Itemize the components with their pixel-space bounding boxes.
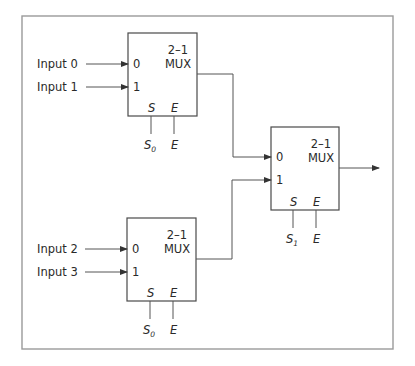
mux-top-in0-label: 0	[133, 57, 140, 71]
mux-bottom-select-signal: S0	[143, 323, 155, 339]
mux-bottom-title-line2: MUX	[164, 242, 190, 256]
input-1-label: Input 1	[37, 80, 78, 94]
mux-bottom-select-pin-label: S	[147, 286, 154, 300]
mux-bottom-title-line1: 2–1	[167, 228, 187, 242]
mux-top-select-signal: S0	[144, 138, 156, 154]
input-0-label: Input 0	[37, 57, 78, 71]
mux-bottom-enable-signal: E	[170, 323, 178, 337]
mux-output-select-pin-label: S	[290, 195, 297, 209]
mux-top-in1-label: 1	[133, 80, 140, 94]
mux-top-enable-signal: E	[171, 138, 179, 152]
mux-bottom-in1-label: 1	[132, 265, 139, 279]
mux-bottom-enable-pin-label: E	[170, 286, 178, 300]
input-3-label: Input 3	[37, 265, 78, 279]
mux-output-in0-label: 0	[276, 150, 283, 164]
mux-bottom-in0-label: 0	[132, 242, 139, 256]
input-2-label: Input 2	[37, 242, 78, 256]
mux-bottom: 2–1 MUX 0 1 S E S0 E	[127, 218, 196, 339]
mux-top-title-line2: MUX	[165, 57, 191, 71]
mux-output-title-line2: MUX	[308, 151, 334, 165]
mux-top-title-line1: 2–1	[168, 43, 188, 57]
mux-output-select-signal: S1	[286, 232, 298, 248]
top-mux-to-output-wire	[197, 74, 271, 157]
mux-output-enable-signal: E	[313, 232, 321, 246]
mux-output-in1-label: 1	[276, 173, 283, 187]
mux-output: 2–1 MUX 0 1 S E S1 E	[271, 127, 339, 248]
mux-output-enable-pin-label: E	[313, 195, 321, 209]
mux-top-select-pin-label: S	[148, 101, 155, 115]
mux-diagram: 2–1 MUX 0 1 S E S0 E Input 0 Input 1 2–1…	[0, 0, 415, 366]
mux-top: 2–1 MUX 0 1 S E S0 E	[128, 33, 197, 154]
mux-top-enable-pin-label: E	[171, 101, 179, 115]
bottom-mux-to-output-wire	[196, 180, 271, 259]
mux-output-title-line1: 2–1	[311, 137, 331, 151]
